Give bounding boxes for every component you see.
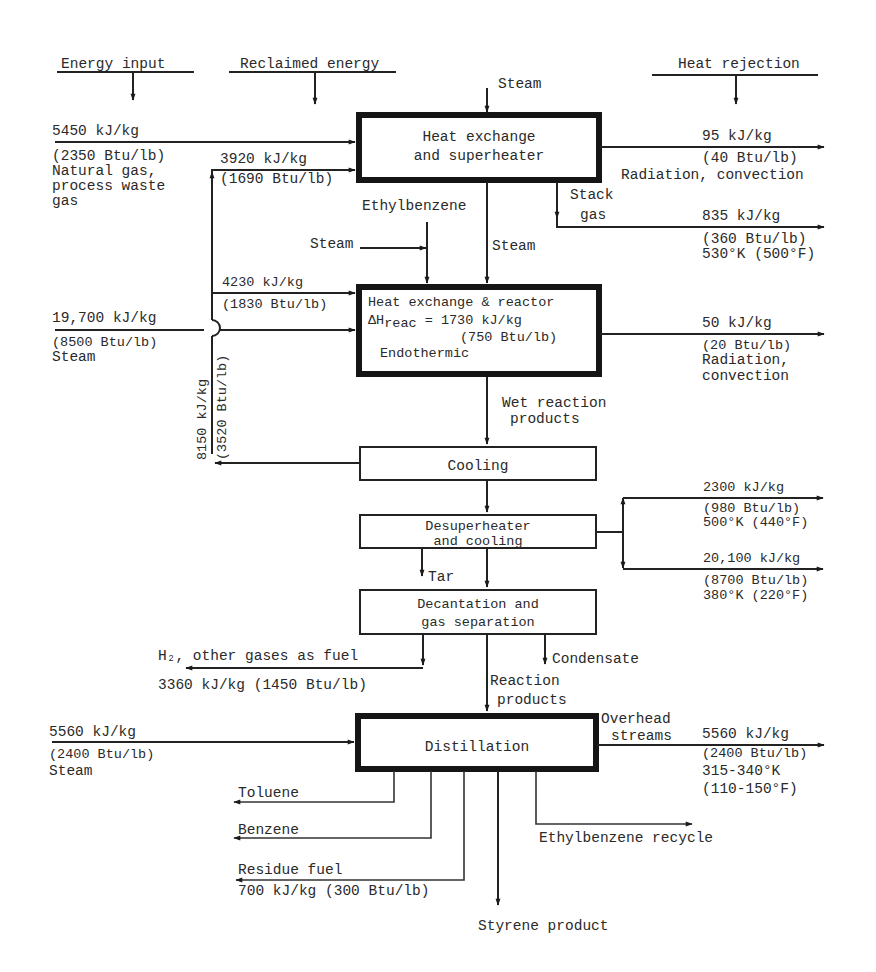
svg-text:(2400 Btu/lb): (2400 Btu/lb) [702, 746, 807, 761]
input-fuel: 5450 kJ/kg (2350 Btu/lb) Natural gas, pr… [52, 123, 355, 209]
rejection-stack-gas: Stack gas 835 kJ/kg (360 Btu/lb) 530°K (… [557, 182, 824, 262]
output-ethylbenzene-recycle: Ethylbenzene recycle [536, 771, 713, 846]
svg-text:95 kJ/kg: 95 kJ/kg [702, 128, 772, 144]
input-reactor-steam: 19,700 kJ/kg (8500 Btu/lb) Steam [52, 310, 355, 365]
unit-cooling: Cooling [360, 447, 596, 480]
svg-text:Decantation and: Decantation and [417, 597, 539, 612]
svg-text:Tar: Tar [428, 569, 454, 585]
output-toluene: Toluene [234, 771, 394, 802]
rejection-reactor-loss: 50 kJ/kg (20 Btu/lb) Radiation, convecti… [600, 315, 824, 384]
svg-text:3360 kJ/kg (1450 Btu/lb): 3360 kJ/kg (1450 Btu/lb) [158, 677, 367, 693]
rejection-superheater-loss: 95 kJ/kg (40 Btu/lb) Radiation, convecti… [600, 128, 824, 183]
svg-text:5450 kJ/kg: 5450 kJ/kg [52, 123, 139, 139]
output-overhead: Overhead streams 5560 kJ/kg (2400 Btu/lb… [597, 711, 824, 797]
svg-text:(360 Btu/lb): (360 Btu/lb) [702, 231, 806, 247]
svg-text:process waste: process waste [52, 178, 165, 194]
input-distillation-steam: 5560 kJ/kg (2400 Btu/lb) Steam [49, 724, 354, 779]
svg-text:gas: gas [580, 207, 606, 223]
svg-text:Ethylbenzene recycle: Ethylbenzene recycle [539, 830, 713, 846]
svg-text:Radiation,: Radiation, [702, 352, 789, 368]
svg-text:8150 kJ/kg: 8150 kJ/kg [195, 379, 210, 460]
svg-text:Steam: Steam [492, 238, 536, 254]
unit-decantation: Decantation and gas separation [360, 590, 596, 634]
svg-text:50 kJ/kg: 50 kJ/kg [702, 315, 772, 331]
svg-text:Wet reaction: Wet reaction [502, 395, 606, 411]
svg-text:Heat exchange & reactor: Heat exchange & reactor [368, 295, 554, 310]
svg-text:(8700 Btu/lb): (8700 Btu/lb) [703, 573, 808, 588]
input-reclaimed-reactor: 4230 kJ/kg (1830 Btu/lb) [212, 275, 355, 312]
output-h2-fuel: H₂, other gases as fuel 3360 kJ/kg (1450… [158, 635, 423, 693]
svg-text:4230 kJ/kg: 4230 kJ/kg [222, 275, 303, 290]
header-energy-input: Energy input [57, 56, 194, 100]
svg-text:(110-150°F): (110-150°F) [702, 781, 798, 797]
svg-text:5560 kJ/kg: 5560 kJ/kg [49, 724, 136, 740]
styrene-energy-flow-diagram: Energy input Reclaimed energy Heat rejec… [0, 0, 876, 972]
svg-text:and superheater: and superheater [414, 148, 545, 164]
svg-text:Residue fuel: Residue fuel [238, 862, 342, 878]
svg-text:Reaction: Reaction [490, 673, 560, 689]
svg-text:835 kJ/kg: 835 kJ/kg [702, 208, 780, 224]
svg-text:Overhead: Overhead [601, 711, 671, 727]
svg-text:(980 Btu/lb): (980 Btu/lb) [703, 501, 800, 516]
svg-text:5560 kJ/kg: 5560 kJ/kg [702, 726, 789, 742]
output-styrene-product: Styrene product [478, 771, 609, 934]
svg-text:700 kJ/kg (300 Btu/lb): 700 kJ/kg (300 Btu/lb) [238, 883, 429, 899]
header-label: Energy input [61, 56, 165, 72]
svg-text:3920 kJ/kg: 3920 kJ/kg [220, 151, 307, 167]
svg-text:Benzene: Benzene [238, 822, 299, 838]
svg-text:Endothermic: Endothermic [380, 346, 469, 361]
svg-text:convection: convection [702, 368, 789, 384]
ethylbenzene-feed-label: Ethylbenzene [362, 198, 466, 214]
rejection-desuper-cold: 20,100 kJ/kg (8700 Btu/lb) 380°K (220°F) [623, 551, 823, 603]
svg-text:(20 Btu/lb): (20 Btu/lb) [702, 338, 791, 353]
svg-text:and cooling: and cooling [433, 534, 522, 549]
unit-reactor: Heat exchange & reactor ΔHreac = 1730 kJ… [359, 287, 599, 374]
steam-top-label: Steam [498, 76, 542, 92]
svg-text:products: products [497, 692, 567, 708]
svg-text:Steam: Steam [49, 763, 93, 779]
svg-text:(40 Btu/lb): (40 Btu/lb) [702, 150, 798, 166]
svg-text:Distillation: Distillation [425, 739, 529, 755]
line-crossover-hop [212, 320, 220, 336]
svg-text:Toluene: Toluene [238, 785, 299, 801]
svg-text:500°K (440°F): 500°K (440°F) [703, 515, 808, 530]
svg-text:Heat exchange: Heat exchange [422, 129, 535, 145]
unit-heat-exchange-superheater: Heat exchange and superheater [359, 115, 599, 180]
svg-text:Natural gas,: Natural gas, [52, 163, 156, 179]
unit-desuperheater: Desuperheater and cooling [360, 515, 596, 549]
svg-text:315-340°K: 315-340°K [702, 763, 781, 779]
svg-text:(2400 Btu/lb): (2400 Btu/lb) [49, 747, 154, 762]
svg-text:380°K (220°F): 380°K (220°F) [703, 588, 808, 603]
header-label: Reclaimed energy [240, 56, 380, 72]
svg-text:gas: gas [52, 193, 78, 209]
svg-text:Cooling: Cooling [448, 458, 509, 474]
svg-text:(1830 Btu/lb): (1830 Btu/lb) [222, 297, 327, 312]
svg-text:530°K (500°F): 530°K (500°F) [702, 246, 815, 262]
unit-distillation: Distillation [358, 716, 596, 769]
output-benzene: Benzene [234, 771, 431, 838]
svg-text:gas separation: gas separation [421, 615, 534, 630]
svg-text:(8500 Btu/lb): (8500 Btu/lb) [52, 335, 157, 350]
rejection-desuper-hot: 2300 kJ/kg (980 Btu/lb) 500°K (440°F) [623, 480, 823, 530]
svg-text:2300 kJ/kg: 2300 kJ/kg [703, 480, 784, 495]
svg-text:Styrene product: Styrene product [478, 918, 609, 934]
reclaimed-loop-line [212, 170, 355, 454]
svg-text:products: products [510, 411, 580, 427]
header-label: Heat rejection [678, 56, 800, 72]
svg-text:streams: streams [611, 728, 672, 744]
svg-text:Steam: Steam [52, 349, 96, 365]
svg-text:(750 Btu/lb): (750 Btu/lb) [460, 330, 557, 345]
svg-text:Radiation, convection: Radiation, convection [621, 167, 804, 183]
svg-text:Steam: Steam [310, 236, 354, 252]
header-heat-rejection: Heat rejection [652, 56, 818, 104]
output-condensate: Condensate [545, 635, 639, 667]
svg-text:Stack: Stack [570, 187, 614, 203]
svg-text:(2350 Btu/lb): (2350 Btu/lb) [52, 148, 165, 164]
svg-text:19,700 kJ/kg: 19,700 kJ/kg [52, 310, 156, 326]
svg-text:H₂, other gases as fuel: H₂, other gases as fuel [158, 648, 358, 664]
header-reclaimed-energy: Reclaimed energy [229, 56, 396, 104]
svg-text:(1690 Btu/lb): (1690 Btu/lb) [220, 171, 333, 187]
svg-text:20,100 kJ/kg: 20,100 kJ/kg [703, 551, 800, 566]
svg-text:Desuperheater: Desuperheater [425, 519, 530, 534]
svg-text:Condensate: Condensate [552, 651, 639, 667]
